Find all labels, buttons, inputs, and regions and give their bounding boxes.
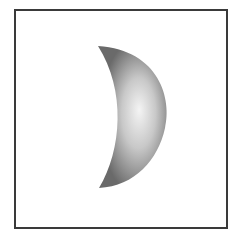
crescent-moon-icon [98,46,167,188]
crescent-figure [0,0,239,240]
